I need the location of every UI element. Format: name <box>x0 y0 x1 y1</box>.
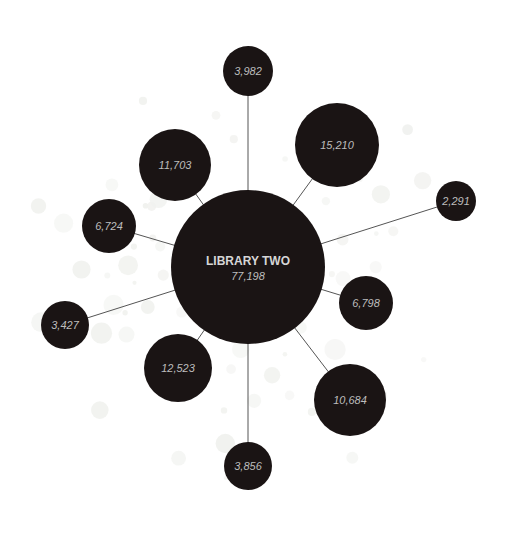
node-value: 11,703 <box>159 159 193 171</box>
decor-dot <box>285 391 295 401</box>
decor-dot <box>118 255 138 275</box>
decor-dot <box>141 300 155 314</box>
satellite-node: 12,523 <box>144 334 212 402</box>
decor-dot <box>31 198 46 213</box>
node-value: 6,724 <box>95 220 123 232</box>
decor-dot <box>54 214 73 233</box>
decor-dot <box>104 273 110 279</box>
node-value: 10,684 <box>333 394 367 406</box>
decor-dot <box>346 452 358 464</box>
decor-dot <box>414 172 431 189</box>
decor-dot <box>370 261 382 273</box>
decor-dot <box>143 203 149 209</box>
decor-dot <box>122 310 127 315</box>
node-value: 3,856 <box>234 460 262 472</box>
satellite-node: 6,798 <box>339 276 393 330</box>
decor-dot <box>372 185 390 203</box>
library-hub-diagram: 3,98215,2102,2916,79810,6843,85612,5233,… <box>0 0 509 543</box>
satellite-node: 11,703 <box>139 129 211 201</box>
satellite-node: 3,856 <box>224 442 272 490</box>
decor-dot <box>230 135 238 143</box>
decor-dot <box>402 124 413 135</box>
node-value: 6,798 <box>352 297 380 309</box>
satellite-node: 15,210 <box>295 103 379 187</box>
decor-dot <box>421 357 426 362</box>
hub-value: 77,198 <box>231 270 266 282</box>
decor-dot <box>374 231 379 236</box>
decor-dot <box>72 260 90 278</box>
node-value: 3,427 <box>51 319 79 331</box>
satellite-node: 2,291 <box>436 181 476 221</box>
decor-dot <box>283 352 288 357</box>
decor-dot <box>155 241 165 251</box>
satellite-node: 10,684 <box>314 364 386 436</box>
node-value: 12,523 <box>161 362 196 374</box>
satellite-node: 3,982 <box>223 46 273 96</box>
decor-dot <box>91 323 112 344</box>
node-value: 2,291 <box>441 195 470 207</box>
decor-dot <box>91 401 109 419</box>
satellite-node: 3,427 <box>41 301 89 349</box>
decor-dot <box>388 226 398 236</box>
decor-dot <box>247 394 261 408</box>
decor-dot <box>106 178 119 191</box>
decor-dot <box>226 364 236 374</box>
decor-dot <box>212 111 221 120</box>
node-value: 3,982 <box>234 65 262 77</box>
hub-title: LIBRARY TWO <box>206 254 290 268</box>
decor-dot <box>171 451 186 466</box>
decor-dot <box>264 367 280 383</box>
decor-dot <box>282 156 288 162</box>
hub-node: LIBRARY TWO 77,198 <box>171 190 325 344</box>
node-value: 15,210 <box>320 139 355 151</box>
decor-dot <box>132 281 136 285</box>
decor-dot <box>308 408 316 416</box>
decor-dot <box>329 271 335 277</box>
decor-dot <box>131 244 137 250</box>
decor-dot <box>158 270 169 281</box>
decor-dot <box>119 327 135 343</box>
decor-dot <box>325 339 346 360</box>
decor-dot <box>322 197 330 205</box>
decor-dot <box>221 407 227 413</box>
satellite-node: 6,724 <box>82 199 136 253</box>
decor-dot <box>139 97 147 105</box>
